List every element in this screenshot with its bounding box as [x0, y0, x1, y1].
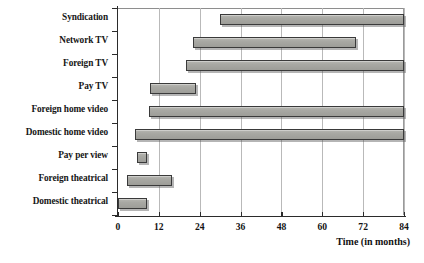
bar-pay-per-view	[137, 152, 147, 164]
category-label-foreign-theatrical: Foreign theatrical	[0, 173, 108, 183]
y-tick-8	[112, 192, 118, 193]
y-tick-5	[112, 123, 118, 124]
y-tick-0	[112, 8, 118, 9]
x-tick-36	[241, 212, 242, 217]
y-tick-9	[112, 215, 118, 216]
plot-area	[118, 8, 404, 215]
x-tick-24	[200, 212, 201, 217]
category-label-pay-tv: Pay TV	[0, 81, 108, 91]
x-tick-label-84: 84	[384, 221, 424, 232]
bar-network-tv	[193, 37, 356, 49]
category-label-foreign-home-video: Foreign home video	[0, 104, 108, 114]
x-tick-label-72: 72	[343, 221, 383, 232]
x-tick-72	[363, 212, 364, 217]
y-axis-line	[117, 6, 118, 217]
gridline-84	[404, 8, 405, 215]
category-label-foreign-tv: Foreign TV	[0, 58, 108, 68]
category-label-syndication: Syndication	[0, 12, 108, 22]
bar-domestic-home-video	[135, 129, 404, 141]
x-tick-label-36: 36	[221, 221, 261, 232]
category-label-domestic-home-video: Domestic home video	[0, 127, 108, 137]
x-tick-label-0: 0	[98, 221, 138, 232]
x-tick-label-60: 60	[302, 221, 342, 232]
y-tick-3	[112, 77, 118, 78]
x-tick-84	[404, 212, 405, 217]
x-tick-label-24: 24	[180, 221, 220, 232]
bar-foreign-theatrical	[127, 175, 173, 187]
plot-frame-top-border	[118, 8, 404, 9]
x-axis-title: Time (in months)	[336, 236, 410, 247]
x-tick-0	[118, 212, 119, 217]
category-label-pay-per-view: Pay per view	[0, 150, 108, 160]
x-tick-60	[322, 212, 323, 217]
y-tick-4	[112, 100, 118, 101]
y-tick-6	[112, 146, 118, 147]
x-tick-12	[159, 212, 160, 217]
category-axis: SyndicationNetwork TVForeign TVPay TVFor…	[0, 5, 112, 217]
category-label-network-tv: Network TV	[0, 35, 108, 45]
bar-foreign-home-video	[149, 106, 404, 118]
bar-foreign-tv	[186, 60, 404, 72]
y-tick-7	[112, 169, 118, 170]
bar-syndication	[220, 14, 404, 26]
bar-domestic-theatrical	[118, 198, 147, 210]
category-label-domestic-theatrical: Domestic theatrical	[0, 196, 108, 206]
x-tick-label-48: 48	[261, 221, 301, 232]
y-tick-1	[112, 31, 118, 32]
x-tick-48	[281, 212, 282, 217]
x-tick-label-12: 12	[139, 221, 179, 232]
gantt-bar-chart: SyndicationNetwork TVForeign TVPay TVFor…	[0, 0, 424, 263]
bar-pay-tv	[150, 83, 196, 95]
y-tick-2	[112, 54, 118, 55]
